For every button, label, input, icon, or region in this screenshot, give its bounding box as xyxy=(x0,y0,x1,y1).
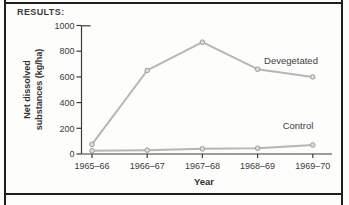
data-point-control xyxy=(90,148,95,153)
y-tick-label: 400 xyxy=(59,98,74,108)
data-point-devegetated xyxy=(311,75,316,80)
series-label-devegetated: Devegetated xyxy=(264,55,318,66)
data-point-control xyxy=(145,148,150,153)
data-point-control xyxy=(311,143,316,148)
line-chart: 020040060080010001965–661966–671967–6819… xyxy=(0,0,349,205)
x-tick-label: 1967–68 xyxy=(185,161,220,171)
y-tick-label: 600 xyxy=(59,72,74,82)
data-point-control xyxy=(200,147,205,152)
data-point-devegetated xyxy=(200,40,205,45)
y-tick-label: 1000 xyxy=(54,21,74,31)
data-point-devegetated xyxy=(255,67,260,72)
results-panel: RESULTS: Net dissolved substances (kg/ha… xyxy=(0,0,349,205)
x-tick-label: 1969–70 xyxy=(295,161,330,171)
y-tick-label: 200 xyxy=(59,124,74,134)
data-point-devegetated xyxy=(90,142,95,147)
x-tick-label: 1968–69 xyxy=(240,161,275,171)
x-tick-label: 1965–66 xyxy=(74,161,109,171)
y-tick-label: 0 xyxy=(69,149,74,159)
data-point-control xyxy=(255,146,260,151)
x-tick-label: 1966–67 xyxy=(130,161,165,171)
data-point-devegetated xyxy=(145,68,150,73)
y-tick-label: 800 xyxy=(59,46,74,56)
series-label-control: Control xyxy=(283,120,314,131)
